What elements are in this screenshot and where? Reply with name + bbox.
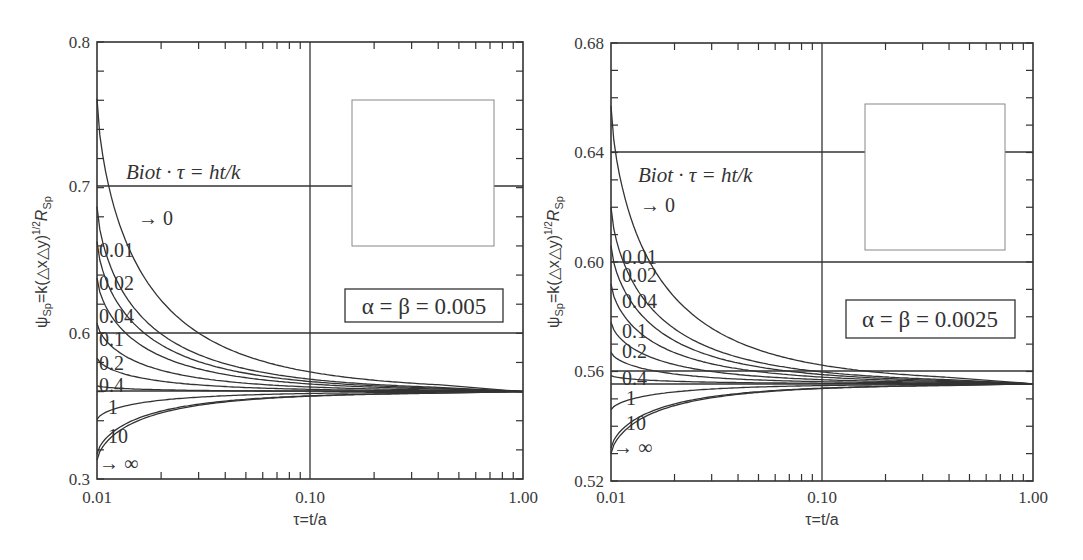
right-curve-label-inf: → ∞	[613, 436, 652, 458]
right-x-axis-title: τ=t/a	[805, 511, 839, 528]
left-curve-label-inf: → ∞	[99, 452, 138, 474]
left-chart: α = β = 0.005 Biot · τ = ht/k → 0 0.01 0…	[31, 33, 538, 528]
left-curve-label-0.2: 0.2	[99, 352, 124, 374]
right-inset-box	[865, 104, 1005, 250]
right-parameter-text: α = β = 0.0025	[862, 307, 998, 332]
left-curve-label-0.1: 0.1	[99, 328, 124, 350]
left-inset-box	[352, 100, 494, 246]
left-x-tick-0.01: 0.01	[82, 488, 112, 507]
left-y-tick-0.6: 0.6	[69, 324, 90, 343]
right-curve-label-0.2: 0.2	[622, 340, 647, 362]
left-y-tick-0.7: 0.7	[69, 177, 91, 196]
right-curve-label-10: 10	[626, 412, 646, 434]
right-chart: α = β = 0.0025 Biot · τ = ht/k → 0 0.01 …	[543, 34, 1048, 528]
left-curve-label-1: 1	[108, 396, 118, 418]
left-x-tick-1.00: 1.00	[508, 488, 538, 507]
right-y-tick-0.64: 0.64	[574, 143, 604, 162]
right-x-tick-0.01: 0.01	[596, 488, 626, 507]
right-y-tick-0.56: 0.56	[574, 362, 604, 381]
left-curve-label-0.04: 0.04	[99, 305, 134, 327]
right-curve-label-0.02: 0.02	[622, 264, 657, 286]
left-curve-label-0.01: 0.01	[99, 239, 134, 261]
right-curve-label-1: 1	[626, 387, 636, 409]
left-curve-label-10: 10	[108, 425, 128, 447]
right-x-tick-0.10: 0.10	[807, 488, 837, 507]
right-curve-label-0.04: 0.04	[622, 290, 657, 312]
left-y-axis-title: ψSp=k(△x△y)1/2RSp	[31, 196, 53, 328]
left-y-tick-0.8: 0.8	[69, 33, 90, 52]
right-biot-annotation: Biot · τ = ht/k	[638, 163, 753, 187]
left-parameter-text: α = β = 0.005	[362, 294, 486, 319]
left-curve-label-0: → 0	[138, 207, 173, 229]
right-curve-label-0.4: 0.4	[622, 367, 647, 389]
right-y-tick-0.60: 0.60	[574, 253, 604, 272]
left-biot-annotation: Biot · τ = ht/k	[126, 160, 241, 184]
left-curve-label-0.4: 0.4	[99, 374, 124, 396]
right-x-tick-1.00: 1.00	[1018, 488, 1048, 507]
left-curve-label-0.02: 0.02	[99, 272, 134, 294]
left-x-axis-title: τ=t/a	[293, 511, 327, 528]
right-curve-label-0: → 0	[640, 194, 675, 216]
right-y-axis-title: ψSp=k(△x△y)1/2RSp	[543, 196, 565, 328]
left-x-tick-0.10: 0.10	[295, 488, 325, 507]
right-y-tick-0.68: 0.68	[574, 34, 604, 53]
left-y-tick-0.5: 0.3	[69, 470, 90, 489]
right-curve-label-0.1: 0.1	[622, 320, 647, 342]
figure: α = β = 0.005 Biot · τ = ht/k → 0 0.01 0…	[0, 0, 1083, 560]
